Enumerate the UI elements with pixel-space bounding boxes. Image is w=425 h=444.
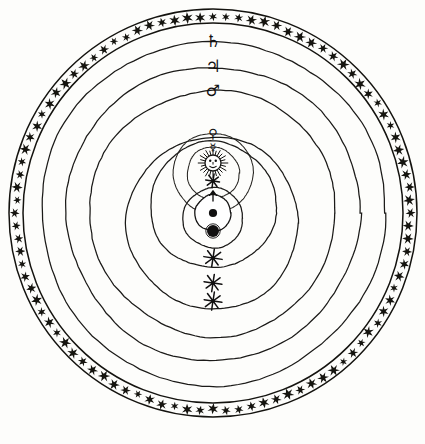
- fixed-star: [385, 120, 396, 131]
- fixed-star: [36, 109, 48, 120]
- fixed-star: [393, 270, 406, 282]
- fixed-star: [355, 337, 367, 349]
- fixed-star: [245, 13, 259, 27]
- sun-ray: [201, 165, 204, 166]
- fixed-star: [402, 194, 416, 207]
- fixed-star: [246, 400, 257, 412]
- fixed-star: [11, 221, 22, 231]
- sun-ray: [201, 160, 205, 161]
- sun-face-eye-right: [215, 160, 217, 162]
- fixed-star: [121, 32, 131, 43]
- fixed-star: [25, 282, 38, 294]
- fixed-star: [51, 327, 63, 338]
- fixed-star: [169, 14, 180, 26]
- fixed-star: [360, 324, 376, 339]
- sun-ray: [217, 170, 220, 175]
- planet-symbol-saturn: ♄: [205, 31, 220, 51]
- sun-ray: [221, 160, 225, 161]
- sun-ray: [219, 169, 222, 172]
- planet-symbol-jupiter: ♃: [205, 56, 220, 76]
- star-marker-mars-orbit: [204, 292, 222, 310]
- sun-ray: [219, 154, 222, 157]
- fixed-star: [234, 404, 245, 415]
- fixed-star: [281, 386, 296, 401]
- moon-disc: [207, 225, 219, 237]
- fixed-star: [404, 182, 415, 192]
- fixed-star: [181, 12, 193, 25]
- fixed-star: [400, 168, 413, 180]
- planet-symbols: ♄♃♂♀☿: [205, 31, 220, 154]
- moon-body: [206, 224, 220, 238]
- star-marker-solar-inner: [204, 249, 222, 267]
- fixed-star: [170, 402, 178, 411]
- fixed-star: [13, 196, 22, 204]
- sun-ray: [204, 169, 207, 172]
- fixed-star: [156, 17, 167, 29]
- earth-centre-dot: [209, 209, 217, 217]
- fixed-star: [362, 87, 375, 100]
- sun-ray: [200, 167, 205, 170]
- sun-ray: [210, 171, 211, 175]
- fixed-star: [402, 220, 414, 231]
- fixed-star: [207, 402, 219, 414]
- sun-ray: [206, 151, 209, 156]
- fixed-star: [195, 405, 205, 416]
- tychonic-diagram: ♄♃♂♀☿: [0, 0, 425, 444]
- sun-face-eye-left: [209, 160, 211, 162]
- fixed-star: [15, 246, 26, 256]
- fixed-star: [258, 396, 270, 409]
- fixed-star: [405, 208, 416, 219]
- fixed-star: [402, 247, 413, 257]
- fixed-star: [144, 393, 155, 405]
- fixed-star: [195, 12, 205, 23]
- fixed-star: [13, 233, 24, 244]
- fixed-star: [402, 233, 414, 244]
- fixed-star: [182, 404, 193, 415]
- fixed-star: [17, 259, 28, 270]
- fixed-star: [388, 282, 399, 293]
- sun-ray: [204, 154, 207, 157]
- sun-ray: [215, 171, 216, 175]
- fixed-star: [220, 405, 231, 416]
- sun-ray: [221, 165, 225, 166]
- fixed-star: [346, 346, 360, 360]
- fixed-star: [222, 13, 230, 22]
- diagram-canvas: ♄♃♂♀☿: [0, 0, 425, 444]
- fixed-star: [15, 170, 26, 180]
- sun-ray: [200, 156, 205, 159]
- sun-ray: [220, 167, 226, 170]
- planet-symbol-venus: ♀: [208, 126, 218, 141]
- planet-symbol-mars: ♂: [206, 81, 220, 100]
- fixed-star: [16, 156, 27, 167]
- fixed-star: [270, 393, 283, 406]
- fixed-star: [9, 208, 20, 218]
- sun-ray: [217, 151, 220, 156]
- fixed-star: [133, 389, 144, 400]
- planet-symbol-mercury: ☿: [210, 141, 217, 154]
- fixed-star: [234, 13, 244, 24]
- fixed-star: [208, 12, 218, 22]
- fixed-star: [11, 182, 23, 193]
- star-marker-solar-outer: [204, 274, 222, 291]
- sun-ray: [220, 156, 225, 159]
